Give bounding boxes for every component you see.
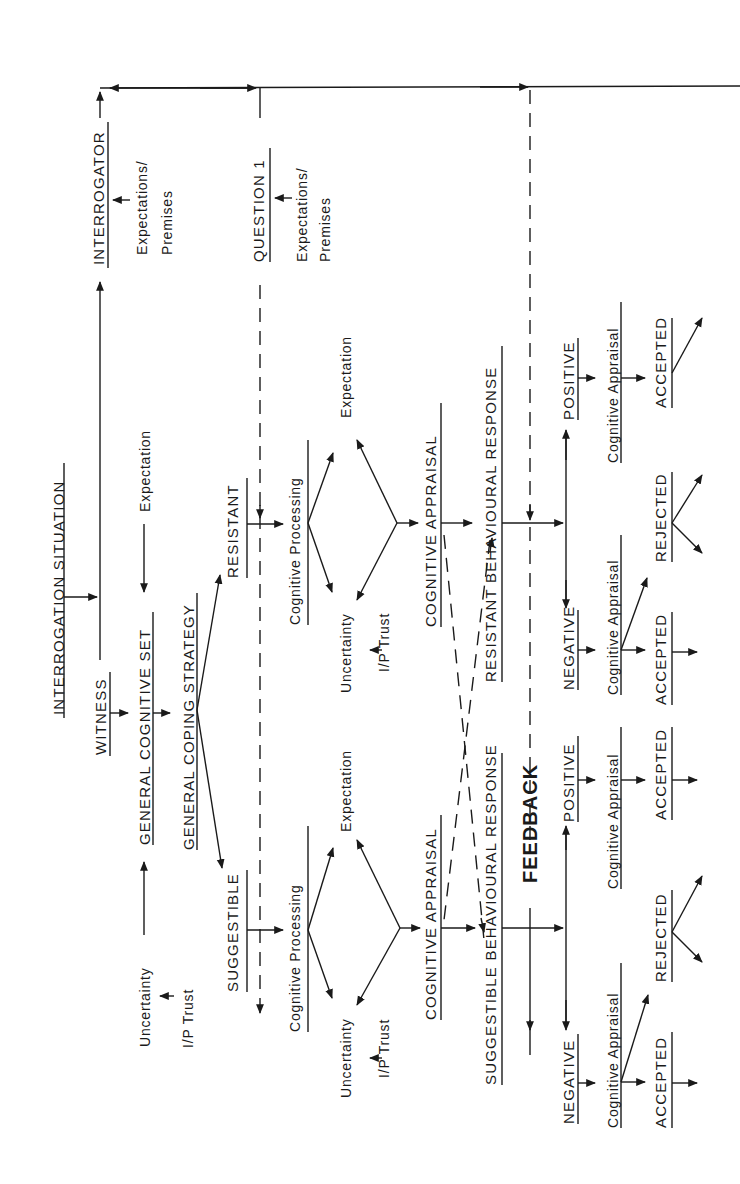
resistant-positive: POSITIVE xyxy=(560,341,577,420)
resistant-trust: I/P Trust xyxy=(376,613,392,672)
suggestible-cognitive-appraisal: COGNITIVE APPRAISAL xyxy=(422,828,439,1020)
suggestible-behavioural-response: SUGGESTIBLE BEHAVIOURAL RESPONSE xyxy=(482,744,499,1085)
suggestible-pos-cognitive-appraisal: Cognitive Appraisal xyxy=(605,754,621,889)
suggestible-uncertainty: Uncertainty xyxy=(338,1018,354,1098)
resistant-pos-accepted: ACCEPTED xyxy=(652,317,669,408)
suggestible-positive: POSITIVE xyxy=(560,743,577,822)
resistant-neg-rejected: REJECTED xyxy=(652,473,669,562)
suggestible-neg-cognitive-appraisal: Cognitive Appraisal xyxy=(605,993,621,1128)
resistant-cognitive-processing: Cognitive Processing xyxy=(287,477,303,625)
suggestible-neg-rejected: REJECTED xyxy=(652,893,669,982)
suggestible-branch: Cognitive Processing Expectation Uncerta… xyxy=(287,727,702,1128)
suggestible-negative: NEGATIVE xyxy=(560,1040,577,1124)
resistant-uncertainty: Uncertainty xyxy=(338,613,354,693)
suggestible-neg-accepted: ACCEPTED xyxy=(652,1037,669,1128)
gcs-uncertainty: Uncertainty xyxy=(137,967,153,1047)
interrogator-expectations: Expectations/ xyxy=(134,161,150,255)
resistant-negative: NEGATIVE xyxy=(560,606,577,690)
question-expectations: Expectations/ xyxy=(294,168,310,262)
general-cognitive-set-label: GENERAL COGNITIVE SET xyxy=(136,629,153,845)
resistant-pos-cognitive-appraisal: Cognitive Appraisal xyxy=(605,328,621,463)
gcs-trust: I/P Trust xyxy=(180,989,196,1048)
resistant-label: RESISTANT xyxy=(224,484,241,578)
interrogator-premises: Premises xyxy=(159,190,175,255)
suggestible-pos-accepted: ACCEPTED xyxy=(652,729,669,820)
interrogator-label: INTERROGATOR xyxy=(90,131,107,265)
top-loop-lines xyxy=(100,86,740,660)
suggestible-expectation: Expectation xyxy=(338,750,354,832)
suggestible-cognitive-processing: Cognitive Processing xyxy=(287,884,303,1032)
witness-label: WITNESS xyxy=(92,678,109,755)
resistant-behavioural-response: RESISTANT BEHAVIOURAL RESPONSE xyxy=(482,366,499,682)
resistant-neg-cognitive-appraisal: Cognitive Appraisal xyxy=(605,560,621,695)
gcs-expectation: Expectation xyxy=(137,430,153,512)
question-label: QUESTION 1 xyxy=(250,159,267,262)
suggestibility-diagram: INTERROGATOR Expectations/ Premises QUES… xyxy=(0,0,740,1184)
suggestible-trust: I/P Trust xyxy=(376,1019,392,1078)
resistant-neg-accepted: ACCEPTED xyxy=(652,614,669,705)
resistant-cognitive-appraisal: COGNITIVE APPRAISAL xyxy=(422,435,439,627)
resistant-branch: Cognitive Processing Expectation Uncerta… xyxy=(287,302,702,705)
question-premises: Premises xyxy=(317,197,333,262)
feedback-label: FEEDBACK xyxy=(519,764,541,883)
suggestible-label: SUGGESTIBLE xyxy=(224,873,241,992)
resistant-expectation: Expectation xyxy=(338,336,354,418)
general-coping-strategy-label: GENERAL COPING STRATEGY xyxy=(180,604,197,850)
